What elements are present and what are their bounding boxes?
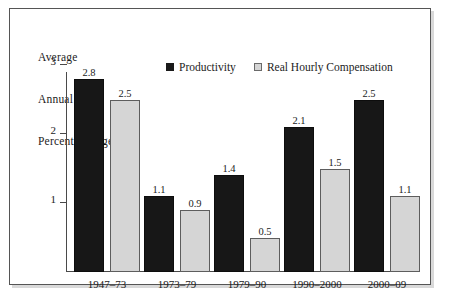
bar-value-label: 2.8 [82,67,95,78]
x-axis-label: 1973–79 [158,278,197,290]
bar-value-label: 2.5 [362,88,375,99]
bar-group: 1.40.5 [214,72,280,272]
bar: 0.9 [180,210,210,272]
bar-group: 2.51.1 [354,72,420,272]
bar: 2.1 [284,127,314,272]
y-axis-tick-3: 3 [60,64,67,65]
bar: 1.1 [390,196,420,272]
bar-value-label: 2.5 [118,88,131,99]
bar: 0.5 [250,238,280,273]
bar-value-label: 0.5 [258,226,271,237]
bar-value-label: 0.9 [188,198,201,209]
bar: 1.1 [144,196,174,272]
bar-value-label: 1.4 [222,163,235,174]
bar: 1.4 [214,175,244,272]
bar-value-label: 2.1 [292,115,305,126]
x-axis-label: 2000–09 [368,278,407,290]
bar: 1.5 [320,169,350,273]
y-axis-tick-label-2: 2 [51,125,57,136]
bar: 2.5 [354,100,384,273]
x-axis-label: 1979–90 [228,278,267,290]
dark-square-icon [166,63,174,71]
y-axis-title-line-1: Average [38,50,113,64]
y-axis-tick-label-3: 3 [51,56,57,67]
y-axis-tick-label-1: 1 [51,194,57,205]
bar-value-label: 1.1 [152,184,165,195]
bar-value-label: 1.1 [398,184,411,195]
bar-group: 1.10.9 [144,72,210,272]
plot-area: 123 2.82.51.10.91.40.52.11.52.51.1 1947–… [66,72,418,272]
figure-container: Average Annual Percent Change Productivi… [0,0,450,304]
light-square-icon [254,63,262,71]
bar-group: 2.82.5 [74,72,140,272]
x-axis-label: 1947–73 [88,278,127,290]
x-axis-label: 1990–2000 [292,278,342,290]
bar-group: 2.11.5 [284,72,350,272]
bar: 2.8 [74,79,104,272]
bar-groups: 2.82.51.10.91.40.52.11.52.51.1 [66,72,418,272]
bar: 2.5 [110,100,140,273]
bar-value-label: 1.5 [328,157,341,168]
